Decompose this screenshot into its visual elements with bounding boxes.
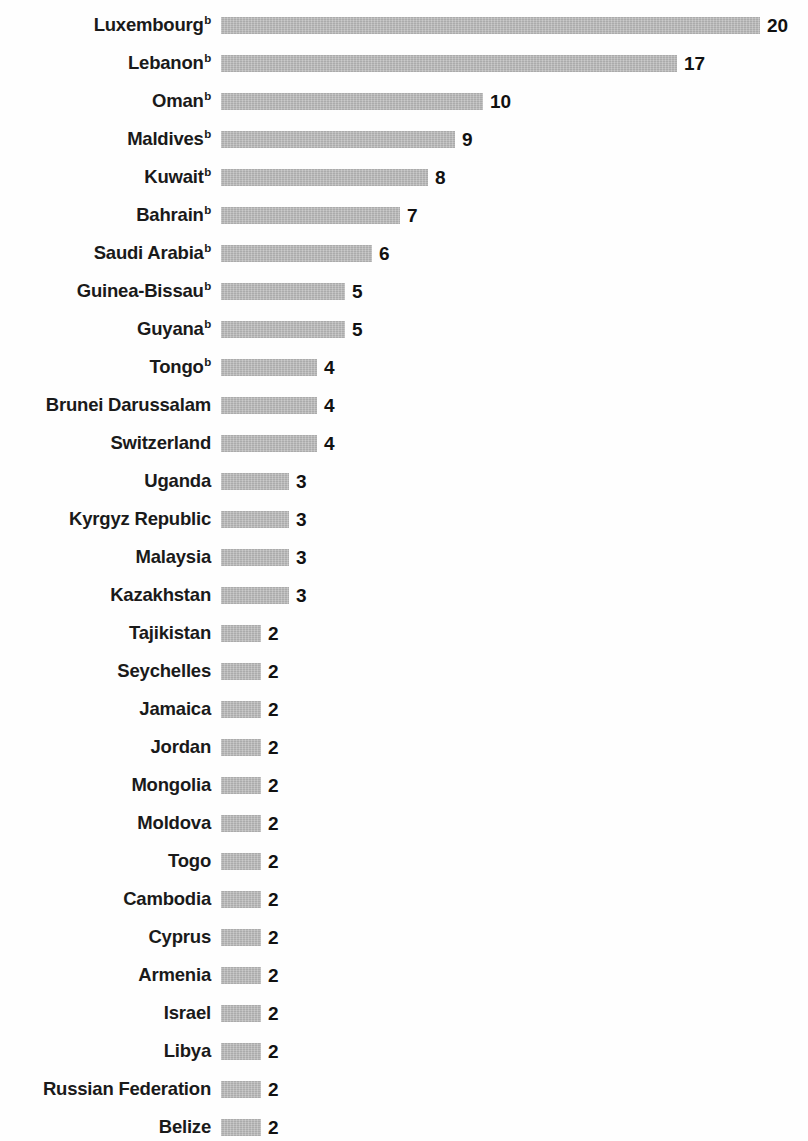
bar-track: 8 [221,168,808,187]
category-label: Kazakhstan [0,586,211,605]
category-label: Guyanab [0,320,211,339]
value-label: 3 [296,548,307,567]
bar-track: 5 [221,282,808,301]
value-label: 3 [296,472,307,491]
bar [221,1119,261,1136]
bar-row: Cambodia2 [0,880,808,918]
bar-row: Libya2 [0,1032,808,1070]
bar-track: 3 [221,548,808,567]
category-label: Bahrainb [0,206,211,225]
category-label: Brunei Darussalam [0,396,211,415]
value-label: 6 [379,244,390,263]
bar-row: Tongob4 [0,348,808,386]
value-label: 5 [352,320,363,339]
category-label: Maldivesb [0,130,211,149]
bar [221,929,261,946]
bar-row: Moldova2 [0,804,808,842]
value-label: 4 [324,358,335,377]
bar-track: 4 [221,434,808,453]
bar-row: Kyrgyz Republic3 [0,500,808,538]
bar-row: Jamaica2 [0,690,808,728]
bar-row: Kazakhstan3 [0,576,808,614]
value-label: 2 [268,966,279,985]
bar-track: 2 [221,624,808,643]
bar [221,511,289,528]
bar-track: 2 [221,776,808,795]
category-label: Omanb [0,92,211,111]
bar [221,283,345,300]
value-label: 2 [268,814,279,833]
bar-track: 4 [221,396,808,415]
bar [221,55,677,72]
category-label: Tongob [0,358,211,377]
bar [221,1005,261,1022]
bar-track: 2 [221,662,808,681]
bar [221,1043,261,1060]
bar-row: Guinea-Bissaub5 [0,272,808,310]
bar [221,625,261,642]
bar-row: Luxembourgb20 [0,6,808,44]
bar [221,815,261,832]
footnote-marker: b [204,356,211,368]
category-label: Armenia [0,966,211,985]
category-label: Jordan [0,738,211,757]
value-label: 8 [435,168,446,187]
bar-row: Cyprus2 [0,918,808,956]
bar-row: Jordan2 [0,728,808,766]
bar-track: 2 [221,928,808,947]
bar-track: 3 [221,510,808,529]
value-label: 20 [767,16,788,35]
bar-track: 4 [221,358,808,377]
value-label: 2 [268,738,279,757]
category-label: Israel [0,1004,211,1023]
category-label: Tajikistan [0,624,211,643]
bar [221,777,261,794]
category-label: Mongolia [0,776,211,795]
footnote-marker: b [204,14,211,26]
footnote-marker: b [204,166,211,178]
bar [221,967,261,984]
bar [221,359,317,376]
bar-chart: Luxembourgb20Lebanonb17Omanb10Maldivesb9… [0,0,808,1141]
bar [221,549,289,566]
bar [221,1081,261,1098]
bar-track: 2 [221,738,808,757]
value-label: 4 [324,434,335,453]
bar-track: 3 [221,472,808,491]
bar-track: 6 [221,244,808,263]
bar-row: Uganda3 [0,462,808,500]
value-label: 9 [462,130,473,149]
bar-row: Armenia2 [0,956,808,994]
category-label: Russian Federation [0,1080,211,1099]
bar-track: 2 [221,1004,808,1023]
bar-track: 2 [221,890,808,909]
value-label: 2 [268,1080,279,1099]
bar [221,891,261,908]
bar-row: Bahrainb7 [0,196,808,234]
bar-row: Switzerland4 [0,424,808,462]
category-label: Moldova [0,814,211,833]
bar-row: Israel2 [0,994,808,1032]
footnote-marker: b [204,204,211,216]
bar-row: Omanb10 [0,82,808,120]
bar-track: 5 [221,320,808,339]
bar-row: Malaysia3 [0,538,808,576]
bar [221,473,289,490]
bar [221,701,261,718]
bar-track: 2 [221,966,808,985]
category-label: Saudi Arabiab [0,244,211,263]
category-label: Lebanonb [0,54,211,73]
footnote-marker: b [204,90,211,102]
footnote-marker: b [204,128,211,140]
category-label: Libya [0,1042,211,1061]
category-label: Guinea-Bissaub [0,282,211,301]
bar [221,663,261,680]
bar-row: Togo2 [0,842,808,880]
bar [221,245,372,262]
bar-track: 20 [221,16,808,35]
bar-track: 2 [221,700,808,719]
value-label: 2 [268,1004,279,1023]
bar-row: Brunei Darussalam4 [0,386,808,424]
bar [221,587,289,604]
bar [221,435,317,452]
